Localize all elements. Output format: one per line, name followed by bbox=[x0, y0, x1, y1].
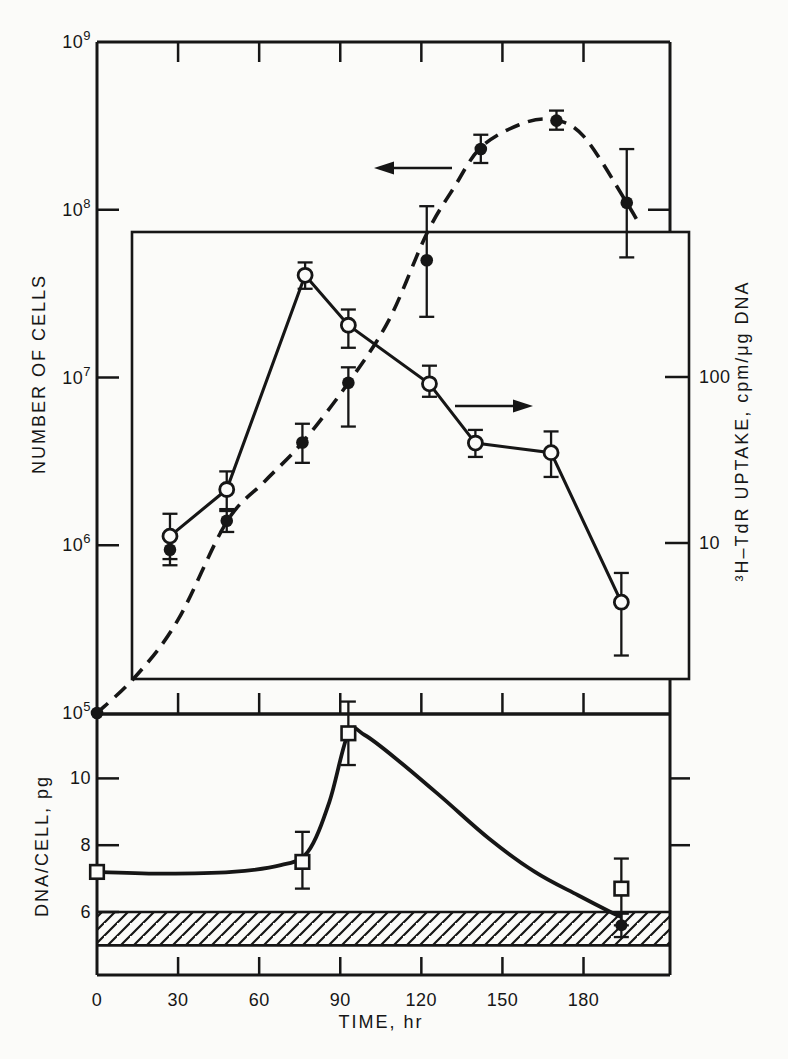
dna-point-marker bbox=[296, 855, 310, 869]
cells-point-marker bbox=[296, 436, 309, 449]
cells-point-marker bbox=[550, 114, 563, 127]
main-y-tick-label: 108 bbox=[62, 196, 91, 220]
growth-figure: 1091081071061051001010860306090120150180… bbox=[0, 0, 788, 1059]
uptake-point-marker bbox=[163, 529, 177, 543]
dna-y-tick-label: 8 bbox=[80, 835, 91, 855]
uptake-point-marker bbox=[341, 318, 355, 332]
dna-point-marker bbox=[615, 882, 629, 896]
x-tick-label: 120 bbox=[406, 990, 438, 1010]
cells-point-marker bbox=[420, 254, 433, 267]
inset-y-tick-label: 100 bbox=[699, 367, 731, 387]
cells-point-marker bbox=[164, 543, 177, 556]
cells-point-marker bbox=[620, 197, 633, 210]
cells-point-marker bbox=[342, 376, 355, 389]
uptake-point-marker bbox=[298, 268, 312, 282]
inset-box bbox=[132, 232, 689, 679]
cells-point-marker bbox=[475, 143, 488, 156]
dna-y-tick-label: 6 bbox=[80, 902, 91, 922]
cells-point-marker bbox=[91, 707, 104, 720]
x-tick-label: 90 bbox=[330, 990, 351, 1010]
left-arrow-icon bbox=[374, 162, 394, 175]
hatched-band bbox=[97, 912, 670, 945]
x-tick-label: 60 bbox=[249, 990, 270, 1010]
dna-filled-point-marker bbox=[615, 919, 627, 931]
y-axis-title-uptake: ³H–TdR UPTAKE, cpm/μg DNA bbox=[732, 280, 752, 581]
x-tick-label: 0 bbox=[92, 990, 103, 1010]
y-axis-title-number-of-cells: NUMBER OF CELLS bbox=[29, 274, 49, 474]
x-axis-title-time: TIME, hr bbox=[338, 1012, 423, 1032]
cells-point-marker bbox=[220, 514, 233, 527]
dna-point-marker bbox=[342, 727, 356, 741]
x-tick-label: 180 bbox=[568, 990, 600, 1010]
dna-curve bbox=[97, 728, 621, 917]
inset-y-tick-label: 10 bbox=[699, 533, 720, 553]
x-tick-label: 150 bbox=[487, 990, 519, 1010]
y-axis-title-dna-per-cell: DNA/CELL, pg bbox=[32, 775, 52, 917]
main-y-tick-label: 109 bbox=[62, 28, 91, 52]
main-y-tick-label: 106 bbox=[62, 531, 91, 555]
dna-y-tick-label: 10 bbox=[70, 768, 91, 788]
uptake-point-marker bbox=[422, 377, 436, 391]
scanned-figure-page: 1091081071061051001010860306090120150180… bbox=[0, 0, 788, 1059]
uptake-point-marker bbox=[468, 436, 482, 450]
main-y-tick-label: 105 bbox=[62, 699, 91, 723]
uptake-point-marker bbox=[220, 483, 234, 497]
uptake-point-marker bbox=[544, 446, 558, 460]
dna-point-marker bbox=[90, 865, 104, 879]
x-tick-label: 30 bbox=[168, 990, 189, 1010]
uptake-point-marker bbox=[614, 595, 628, 609]
chart-layer: 1091081071061051001010860306090120150180 bbox=[62, 28, 730, 1010]
main-y-tick-label: 107 bbox=[62, 364, 91, 388]
